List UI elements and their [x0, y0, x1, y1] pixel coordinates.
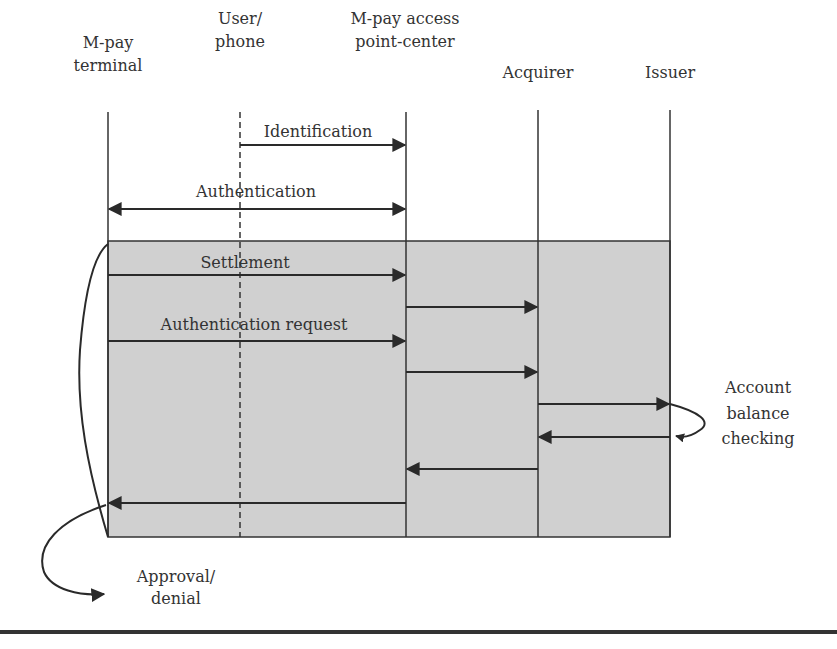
svg-text:Account: Account [724, 378, 792, 397]
svg-text:terminal: terminal [74, 56, 143, 75]
annotation-account-balance-checking: Account balance checking [721, 378, 794, 448]
svg-text:checking: checking [721, 429, 794, 448]
participant-user-phone: User/ phone [215, 9, 265, 51]
svg-text:Acquirer: Acquirer [502, 63, 574, 82]
svg-text:balance: balance [726, 404, 789, 423]
transaction-region [108, 241, 670, 537]
bottom-rule [0, 630, 837, 634]
svg-text:M-pay: M-pay [83, 33, 134, 52]
svg-text:User/: User/ [218, 9, 263, 28]
svg-text:phone: phone [215, 32, 265, 51]
approval-denial-arrow-icon [42, 505, 106, 594]
transaction-span-curve [79, 244, 108, 537]
participant-issuer: Issuer [645, 63, 696, 82]
svg-text:Approval/: Approval/ [136, 567, 216, 586]
message-authentication: Authentication [109, 182, 405, 209]
svg-text:Issuer: Issuer [645, 63, 696, 82]
svg-text:Identification: Identification [264, 122, 373, 141]
message-identification: Identification [240, 122, 405, 145]
svg-text:M-pay access: M-pay access [350, 9, 459, 28]
participant-access-point-center: M-pay access point-center [350, 9, 459, 51]
participant-acquirer: Acquirer [502, 63, 574, 82]
balance-check-loop-icon [670, 404, 705, 437]
sequence-diagram: M-pay terminal User/ phone M-pay access … [0, 0, 837, 649]
annotation-approval-denial: Approval/ denial [136, 567, 216, 608]
svg-text:Authentication: Authentication [195, 182, 316, 201]
svg-text:denial: denial [151, 589, 201, 608]
svg-text:Authentication request: Authentication request [160, 315, 348, 334]
svg-text:point-center: point-center [355, 32, 455, 51]
participant-terminal: M-pay terminal [74, 33, 143, 75]
svg-text:Settlement: Settlement [200, 253, 290, 272]
